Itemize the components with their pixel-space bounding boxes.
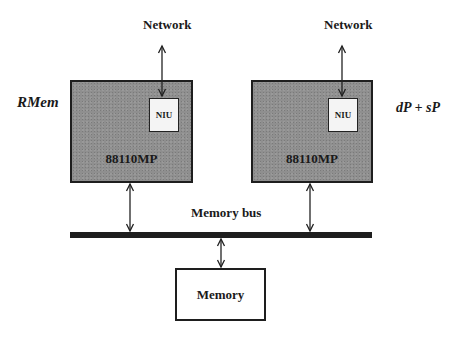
connector-arrows [0, 0, 456, 339]
